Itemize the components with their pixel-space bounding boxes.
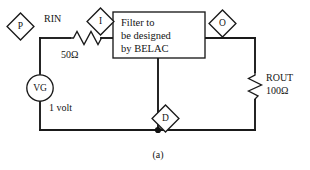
resistor-rout-value-label: 100Ω: [266, 85, 288, 96]
filter-block-line2: be designed: [121, 30, 172, 41]
port-marker-o: O: [209, 10, 236, 37]
figure-canvas: RIN 50Ω ROUT 100Ω VG 1 volt Filter to be…: [0, 0, 310, 170]
resistor-rin-zigzag: [70, 32, 102, 45]
port-p-label: P: [18, 21, 23, 31]
junction-dot-d: [155, 127, 161, 133]
voltage-generator-value-label: 1 volt: [49, 102, 72, 113]
resistor-rout-ref-label: ROUT: [266, 72, 293, 83]
resistor-rin-value-label: 50Ω: [61, 49, 78, 60]
voltage-generator-symbol-label: VG: [33, 83, 47, 93]
figure-caption: (a): [152, 149, 163, 161]
voltage-generator: VG: [27, 75, 53, 101]
port-o-label: O: [219, 18, 226, 28]
port-marker-p: P: [7, 13, 34, 40]
filter-block-line3: by BELAC: [121, 43, 169, 54]
resistor-rin-ref-label: RIN: [44, 13, 61, 24]
circuit-schematic: RIN 50Ω ROUT 100Ω VG 1 volt Filter to be…: [0, 0, 310, 170]
port-i-label: I: [99, 16, 102, 26]
resistor-rin: [70, 32, 102, 45]
port-d-label: D: [162, 113, 169, 123]
resistor-rout-zigzag: [249, 72, 262, 100]
resistor-rout: [249, 72, 262, 100]
filter-block-line1: Filter to: [121, 17, 155, 28]
filter-block: Filter to be designed by BELAC: [113, 12, 205, 58]
